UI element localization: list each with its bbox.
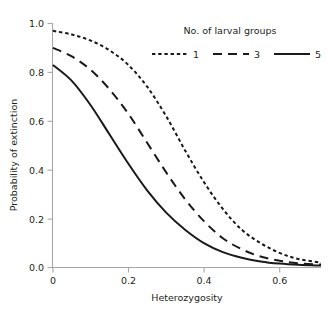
x-tick-label-0.4: 0.4 <box>197 275 212 286</box>
plot-series-group <box>53 31 321 266</box>
y-axis-tick-labels: 1.0 0.8 0.6 0.4 0.2 0.0 <box>29 18 44 273</box>
y-tick-label-0.4: 0.4 <box>29 165 44 176</box>
y-axis: 1.0 0.8 0.6 0.4 0.2 0.0 Probability of e… <box>8 18 53 273</box>
legend-label-5: 5 <box>315 49 321 60</box>
legend-item-5[interactable]: 5 <box>274 49 321 60</box>
x-axis-tick-labels: 0 0.2 0.4 0.6 <box>50 275 287 286</box>
legend-item-1[interactable]: 1 <box>152 49 199 60</box>
y-axis-ticks <box>48 24 53 268</box>
x-tick-label-0: 0 <box>50 275 56 286</box>
x-axis-ticks <box>53 268 280 273</box>
y-tick-label-1.0: 1.0 <box>29 18 44 29</box>
legend-label-1: 1 <box>193 49 199 60</box>
series-line-1 <box>53 31 321 263</box>
legend-label-3: 3 <box>254 49 260 60</box>
x-axis-title: Heterozygosity <box>151 292 223 303</box>
legend: No. of larval groups 1 3 5 <box>152 25 321 60</box>
x-tick-label-0.2: 0.2 <box>121 275 136 286</box>
y-axis-title: Probability of extinction <box>8 99 19 212</box>
legend-title: No. of larval groups <box>184 25 277 36</box>
chart-figure-container: 1.0 0.8 0.6 0.4 0.2 0.0 Probability of e… <box>0 0 334 316</box>
y-tick-label-0.6: 0.6 <box>29 116 44 127</box>
y-tick-label-0.0: 0.0 <box>29 262 44 273</box>
y-tick-label-0.2: 0.2 <box>29 214 44 225</box>
line-chart: 1.0 0.8 0.6 0.4 0.2 0.0 Probability of e… <box>0 0 334 316</box>
legend-item-3[interactable]: 3 <box>213 49 260 60</box>
series-line-5 <box>53 65 321 266</box>
x-axis: 0 0.2 0.4 0.6 Heterozygosity <box>50 268 321 304</box>
x-tick-label-0.6: 0.6 <box>272 275 287 286</box>
y-tick-label-0.8: 0.8 <box>29 67 44 78</box>
